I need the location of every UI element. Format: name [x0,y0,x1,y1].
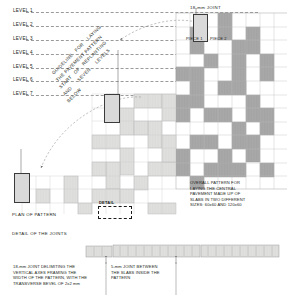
joint-note-right-line-3: PATTERN [111,275,177,281]
detail-of-the-joints-label: DETAIL OF THE JOINTS [12,231,67,236]
drawing-canvas: LEVEL 1 LEVEL 2 LEVEL 3 LEVEL 4 LEVEL 5 … [0,0,287,301]
detail-callout-box[interactable] [98,206,132,219]
plan-of-pattern-label: PLAN OF PATTERN [12,212,56,217]
pattern-mosaic [0,0,287,301]
highlight-piece-lower[interactable] [14,173,30,203]
joint-18mm-label: 18-mm JOINT [190,5,221,10]
detail-label: DETAIL [99,200,114,205]
joint-note-left: 18-mm JOINT DELIMITING THE VERTICAL AXES… [13,264,105,286]
overall-note-line-5: SIZES: 60x60 AND 120x60 [190,202,284,208]
highlight-piece-middle[interactable] [104,94,120,123]
tile-grid-center [22,94,176,214]
piece-1-label: PIECE 1 [186,36,203,41]
overall-pattern-note: OVERALL PATTERN FOR LAYING THE CENTRAL P… [190,180,284,208]
piece-2-label: PIECE 2 [210,36,227,41]
joint-note-left-line-4: TRANSVERSE BEVEL OF 2x2 mm [13,281,105,287]
joint-note-right: 5-mm JOINT BETWEEN THE SLABS INSIDE THE … [111,264,177,281]
